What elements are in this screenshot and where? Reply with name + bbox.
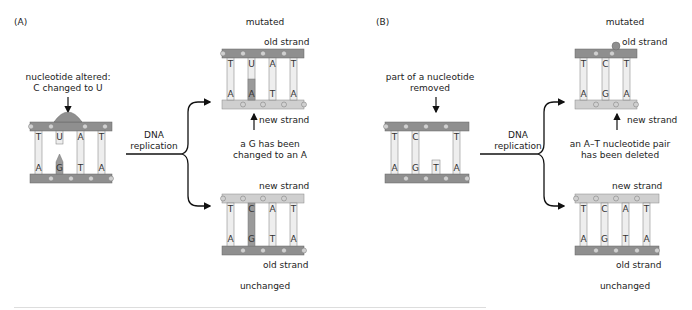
svg-text:A: A: [580, 234, 587, 244]
svg-text:A: A: [580, 89, 587, 99]
panel-b-branch-arrows: [480, 102, 564, 206]
svg-text:C: C: [601, 204, 607, 214]
svg-text:T: T: [643, 204, 650, 214]
svg-text:T: T: [432, 163, 439, 173]
svg-text:T: T: [580, 59, 587, 69]
bottom-divider: [14, 307, 486, 308]
svg-text:T: T: [290, 59, 297, 69]
svg-text:T: T: [290, 204, 297, 214]
svg-text:A: A: [248, 89, 255, 99]
svg-text:C: C: [602, 59, 608, 69]
svg-text:A: A: [623, 89, 630, 99]
svg-text:G: G: [412, 163, 419, 173]
svg-text:A: A: [227, 89, 234, 99]
svg-text:T: T: [227, 59, 234, 69]
svg-text:U: U: [56, 132, 63, 142]
svg-text:T: T: [622, 234, 629, 244]
svg-text:A: A: [622, 204, 629, 214]
svg-text:A: A: [290, 234, 297, 244]
panel-a-mutated-dna: T U A T A A T A: [221, 49, 307, 130]
svg-text:T: T: [269, 89, 276, 99]
svg-text:G: G: [248, 234, 255, 244]
svg-text:T: T: [227, 204, 234, 214]
svg-text:U: U: [248, 59, 255, 69]
svg-text:T: T: [77, 163, 84, 173]
svg-text:T: T: [623, 59, 630, 69]
svg-text:A: A: [35, 163, 42, 173]
panel-b-unchanged-dna: T C A T A G T A: [574, 194, 660, 255]
svg-text:A: A: [227, 234, 234, 244]
svg-text:T: T: [453, 132, 460, 142]
panel-b-original-dna: T C T A G T A: [384, 97, 470, 183]
panel-b-mutated-dna: T C T A G A: [575, 42, 639, 130]
svg-text:T: T: [35, 132, 42, 142]
svg-text:T: T: [98, 132, 105, 142]
svg-text:G: G: [601, 234, 608, 244]
svg-text:C: C: [248, 204, 254, 214]
svg-text:A: A: [98, 163, 105, 173]
panel-a-unchanged-dna: T C A T A G T A: [221, 194, 307, 255]
svg-text:T: T: [580, 204, 587, 214]
panel-a-original-dna: T U A T A G T A: [29, 97, 114, 183]
svg-text:A: A: [453, 163, 460, 173]
svg-text:C: C: [412, 132, 418, 142]
svg-text:A: A: [269, 59, 276, 69]
svg-text:T: T: [269, 234, 276, 244]
svg-text:G: G: [56, 163, 63, 173]
svg-text:A: A: [643, 234, 650, 244]
svg-text:T: T: [391, 132, 398, 142]
svg-text:A: A: [391, 163, 398, 173]
dna-diagram-canvas: T U A T A G T A T U A T A A T: [0, 0, 692, 310]
svg-text:A: A: [290, 89, 297, 99]
svg-text:A: A: [77, 132, 84, 142]
svg-text:G: G: [602, 89, 609, 99]
panel-a-branch-arrows: [126, 102, 210, 206]
svg-text:A: A: [269, 204, 276, 214]
